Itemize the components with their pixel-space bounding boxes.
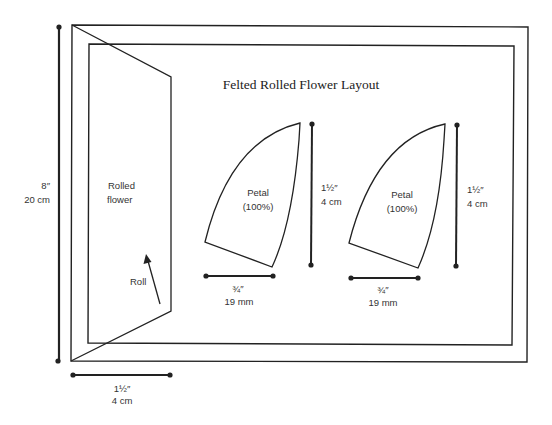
dimension-endpoint (415, 275, 420, 280)
dimension-endpoint (203, 273, 208, 278)
petal-height-metric: 4 cm (321, 196, 342, 207)
dimension-endpoint (348, 275, 353, 280)
petal-1: Petal (100%) 1½″ 4 cm ¾″ 19 mm (203, 121, 341, 307)
petal-height-imperial: 1½″ (467, 184, 484, 195)
petal-percent: (100%) (387, 203, 418, 214)
dimension-endpoint (70, 372, 75, 377)
dimension-endpoint (55, 358, 60, 363)
dimension-endpoint (454, 122, 459, 127)
petal-percent: (100%) (243, 201, 274, 212)
rolled-flower-label-2: flower (107, 194, 132, 205)
petal-2: Petal (100%) 1½″ 4 cm ¾″ 19 mm (348, 122, 487, 308)
petal-height-metric: 4 cm (467, 198, 488, 209)
diagram-title: Felted Rolled Flower Layout (223, 77, 380, 92)
dimension-endpoint (453, 263, 458, 268)
roll-arrowhead-icon (144, 254, 152, 264)
petal-width-imperial: ¾″ (232, 283, 244, 294)
rolled-flower-shape (71, 25, 171, 361)
petal-width-metric: 19 mm (224, 296, 253, 307)
dimension-endpoint (56, 24, 61, 29)
petal-label: Petal (247, 187, 269, 198)
dimension-endpoint (167, 372, 172, 377)
rolled-flower-label: Rolled (108, 180, 135, 191)
dimension-endpoint (270, 273, 275, 278)
petal-label: Petal (391, 189, 413, 200)
dimension-endpoint (308, 262, 313, 267)
petal-width-metric: 19 mm (368, 297, 397, 308)
roll-arrow-icon (148, 261, 160, 304)
layout-diagram: Felted Rolled Flower Layout Rolled flowe… (0, 0, 552, 425)
base-width-metric: 4 cm (112, 395, 133, 406)
petal-width-imperial: ¾″ (377, 284, 389, 295)
petal-height-dimension-line (311, 124, 312, 265)
petal-height-dimension-line (456, 125, 457, 266)
outer-frame (71, 25, 528, 362)
base-width-imperial: 1½″ (114, 383, 131, 394)
petal-height-imperial: 1½″ (321, 182, 338, 193)
height-metric: 20 cm (24, 194, 50, 205)
height-imperial: 8″ (41, 180, 50, 191)
roll-label: Roll (130, 276, 146, 287)
dimension-endpoint (309, 121, 314, 126)
